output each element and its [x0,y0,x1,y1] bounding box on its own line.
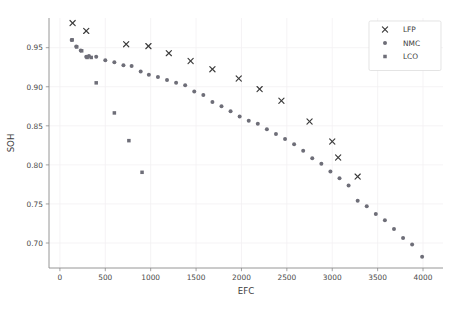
data-point-nmc [274,132,278,136]
data-point-nmc [347,184,351,188]
legend-marker-lco [383,55,387,59]
data-point-nmc [383,218,387,222]
scatter-chart-figure: 050010001500200025003000350040000.700.75… [0,0,467,310]
legend-label-lco: LCO [403,52,418,61]
data-point-nmc [192,89,196,93]
data-point-nmc [139,70,143,74]
data-point-nmc [156,75,160,79]
x-tick-label: 2500 [277,273,296,282]
data-point-nmc [392,227,396,231]
data-point-nmc [319,162,323,166]
data-point-nmc [301,149,305,153]
data-point-nmc [310,156,314,160]
x-tick-label: 2000 [232,273,251,282]
data-point-nmc [121,63,125,67]
data-point-lco [75,45,79,49]
chart-canvas: 050010001500200025003000350040000.700.75… [0,0,467,310]
data-point-nmc [174,81,178,85]
data-point-lco [80,49,84,53]
data-point-nmc [374,212,378,216]
data-point-nmc [420,255,424,259]
plot-area: 050010001500200025003000350040000.700.75… [0,0,467,310]
data-point-nmc [265,127,269,131]
legend-label-lfp: LFP [403,25,416,34]
x-axis-title: EFC [238,286,254,296]
y-tick-label: 0.85 [27,122,44,131]
data-point-nmc [292,142,296,146]
data-point-nmc [229,109,233,113]
data-point-lfp [124,42,129,47]
x-tick-label: 0 [58,273,63,282]
y-tick-label: 0.80 [27,161,44,170]
series-nmc [70,38,424,259]
data-point-nmc [365,204,369,208]
data-point-lfp [336,155,341,160]
data-point-nmc [401,236,405,240]
data-point-nmc [238,114,242,118]
data-point-lco [113,111,117,115]
data-point-nmc [183,83,187,87]
legend-label-nmc: NMC [403,39,420,48]
data-point-lco [89,56,93,60]
data-point-nmc [219,104,223,108]
y-axis-ticks: 0.700.750.800.850.900.95 [27,43,49,247]
data-point-lco [140,171,144,175]
data-point-nmc [147,73,151,77]
data-point-nmc [283,137,287,141]
data-point-lco [85,56,89,60]
data-point-nmc [247,119,251,123]
y-axis-title: SOH [6,134,16,153]
data-point-lfp [307,119,312,124]
data-point-nmc [210,100,214,104]
series-lfp [70,20,360,179]
data-point-nmc [201,93,205,97]
data-point-nmc [112,60,116,64]
y-tick-label: 0.70 [27,239,44,248]
data-point-nmc [328,170,332,174]
data-point-nmc [338,176,342,180]
data-point-nmc [103,58,107,62]
data-point-lfp [355,174,360,179]
data-point-lfp [70,20,75,25]
y-tick-label: 0.90 [27,83,44,92]
data-point-lfp [279,98,284,103]
data-point-lfp [236,76,241,81]
data-point-lfp [84,28,89,33]
x-tick-label: 1500 [187,273,206,282]
data-point-lfp [210,67,215,72]
x-tick-label: 500 [98,273,112,282]
x-tick-label: 3000 [323,273,342,282]
data-point-lco [70,38,74,42]
data-point-nmc [94,55,98,59]
legend-marker-nmc [383,41,387,45]
data-point-lco [127,139,131,143]
data-point-lfp [257,86,262,91]
series-lco [70,38,143,174]
data-point-lfp [166,51,171,56]
y-tick-label: 0.75 [27,200,44,209]
data-point-nmc [165,78,169,82]
x-tick-label: 4000 [414,273,433,282]
x-axis-ticks: 05001000150020002500300035004000 [58,268,433,282]
legend: LFPNMCLCO [369,21,441,71]
x-tick-label: 3500 [368,273,387,282]
data-point-nmc [256,122,260,126]
data-point-lco [94,81,98,85]
y-tick-label: 0.95 [27,43,44,52]
data-point-nmc [356,199,360,203]
data-point-nmc [130,64,134,68]
data-point-nmc [410,243,414,247]
x-tick-label: 1000 [141,273,160,282]
data-point-lfp [188,58,193,63]
